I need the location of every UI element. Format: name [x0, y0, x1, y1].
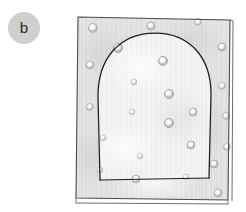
pore — [189, 108, 197, 116]
pore — [165, 90, 174, 99]
pore — [187, 141, 195, 149]
pore — [218, 43, 226, 51]
pore — [100, 135, 106, 141]
pore — [131, 79, 137, 85]
outer-bottom-secondary-edge — [76, 203, 228, 204]
pore — [159, 57, 168, 66]
pore — [210, 160, 218, 168]
panel-letter-badge: b — [8, 12, 40, 44]
pore — [183, 174, 189, 180]
pore — [224, 144, 231, 151]
figure-panel: b — [0, 0, 246, 212]
pore — [165, 119, 174, 128]
pore — [87, 104, 94, 111]
pore — [129, 109, 135, 115]
panel-letter-label: b — [20, 20, 28, 35]
pore — [147, 22, 155, 30]
pore — [86, 61, 94, 69]
pore — [219, 83, 226, 90]
specimen-image — [70, 8, 238, 208]
specimen-svg — [70, 8, 238, 208]
pore — [214, 189, 222, 197]
pore — [89, 24, 98, 33]
pore — [137, 153, 143, 159]
outer-right-secondary-edge — [232, 21, 233, 201]
